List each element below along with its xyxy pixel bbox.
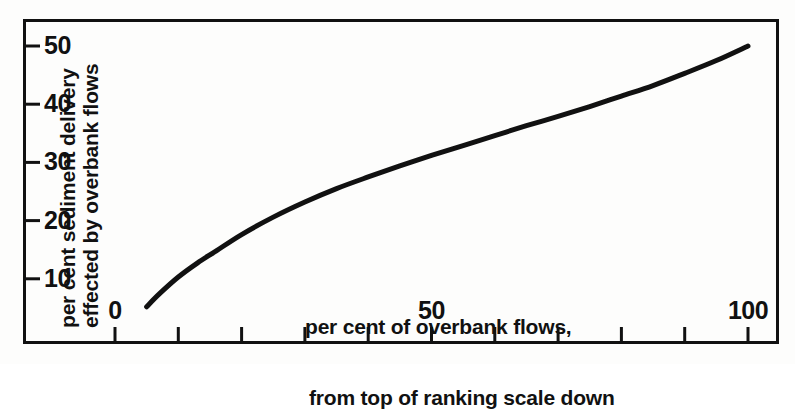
x-axis-caption-line-1: per cent of overbank flows, <box>305 315 615 339</box>
x-axis-caption-line-2: from top of ranking scale down <box>305 386 615 410</box>
y-axis-title: per cent sediment delivery effected by o… <box>56 28 102 328</box>
y-axis-title-line-2: effected by overbank flows <box>80 64 101 328</box>
y-axis-title-line-1: per cent sediment delivery <box>57 68 78 328</box>
x-axis-caption: per cent of overbank flows, from top of … <box>305 268 615 413</box>
x-tick-label-100: 100 <box>703 298 793 323</box>
y-axis-ticks <box>24 46 40 279</box>
